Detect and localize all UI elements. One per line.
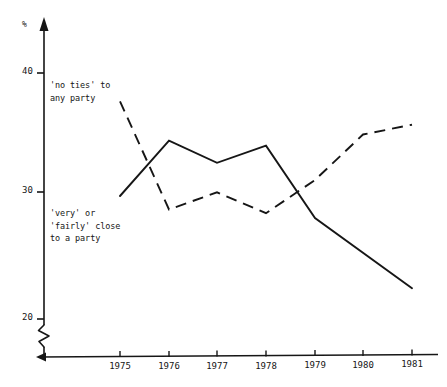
y-tick-label-20: 20 [22,312,33,322]
y-tick-label-40: 40 [22,66,33,76]
series-close-to-party-line [120,141,412,289]
x-tick-label-1979: 1979 [300,360,330,370]
line-chart-figure: % 40 30 20 1975 1976 1977 1978 1979 1980… [0,0,447,387]
annotation-close-to-party: 'very' or 'fairly' close to a party [50,207,120,245]
y-axis-unit-symbol: % [22,20,27,29]
y-tick-label-30: 30 [22,185,33,195]
x-tick-label-1980: 1980 [348,360,378,370]
y-axis [36,17,49,362]
x-axis [40,355,438,358]
annotation-no-ties-line-1: 'no ties' to [50,79,110,92]
chart-canvas [0,0,447,387]
x-tick-label-1978: 1978 [251,361,281,371]
x-tick-label-1977: 1977 [202,361,232,371]
x-tick-label-1975: 1975 [105,361,135,371]
annotation-close-to-party-line-2: 'fairly' close [50,220,120,233]
annotation-close-to-party-line-3: to a party [50,232,120,245]
annotation-close-to-party-line-1: 'very' or [50,207,120,220]
y-axis-ticks [37,73,44,319]
series-no-ties-line [120,101,412,213]
x-tick-label-1976: 1976 [154,361,184,371]
x-tick-label-1981: 1981 [397,359,427,369]
annotation-no-ties: 'no ties' to any party [50,79,110,104]
annotation-no-ties-line-2: any party [50,92,110,105]
